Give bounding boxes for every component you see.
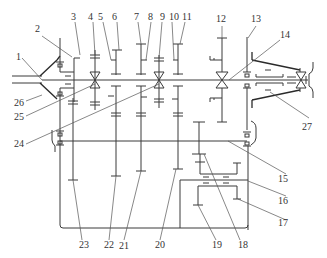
label-21: 21: [119, 240, 129, 251]
label-25: 25: [14, 111, 24, 122]
label-10: 10: [169, 11, 179, 22]
label-2: 2: [35, 23, 40, 34]
label-22: 22: [104, 239, 114, 250]
gear-pair-7-8: [136, 44, 147, 171]
countershaft-gear-23: [68, 98, 78, 180]
lower-housing: [60, 225, 248, 228]
label-14: 14: [280, 29, 290, 40]
gear-pair-5-6: [108, 50, 122, 176]
label-5: 5: [98, 11, 103, 22]
label-15: 15: [278, 173, 288, 184]
label-3: 3: [71, 11, 76, 22]
input-shaft: [12, 56, 60, 99]
gear-pair-10-11: [172, 44, 183, 169]
label-26: 26: [14, 97, 24, 108]
label-24: 24: [14, 138, 24, 149]
label-27: 27: [302, 121, 312, 132]
label-19: 19: [212, 239, 222, 250]
right-housing-wall: [243, 37, 256, 230]
label-8: 8: [148, 11, 153, 22]
transmission-diagram: 1 2 3 4 5 6 7 8 9 10 11 12 13 14 15 16 1…: [0, 0, 327, 258]
label-13: 13: [251, 13, 261, 24]
label-23: 23: [79, 239, 89, 250]
label-1: 1: [16, 51, 21, 62]
label-9: 9: [160, 11, 165, 22]
label-6: 6: [112, 11, 117, 22]
leader-lines: [22, 22, 309, 240]
reverse-idler: [192, 122, 206, 154]
label-20: 20: [155, 239, 165, 250]
label-18: 18: [238, 239, 248, 250]
label-7: 7: [134, 11, 139, 22]
label-4: 4: [88, 11, 93, 22]
synchronizer-9: [154, 55, 164, 108]
auxiliary-box: [180, 154, 248, 228]
label-16: 16: [278, 195, 288, 206]
label-11: 11: [182, 11, 192, 22]
label-17: 17: [278, 217, 288, 228]
label-12: 12: [216, 13, 226, 24]
